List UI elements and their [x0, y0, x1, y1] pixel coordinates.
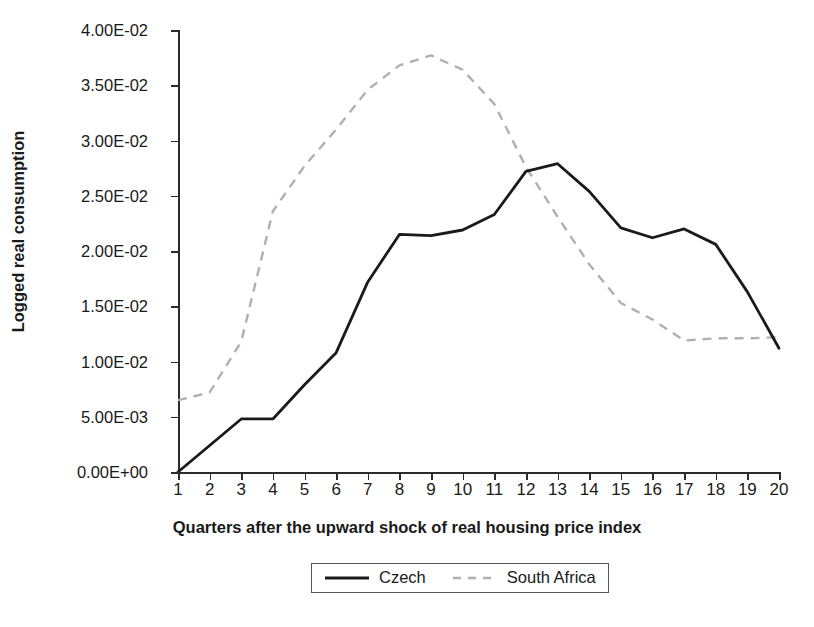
y-tick-mark [171, 417, 178, 419]
x-tick-label: 16 [643, 480, 662, 500]
x-tick-mark [684, 472, 686, 480]
y-tick-mark [171, 472, 178, 474]
x-tick-label: 3 [237, 480, 246, 500]
series-plot [178, 30, 779, 472]
legend-swatch-solid-icon [324, 572, 370, 584]
y-tick-mark [171, 362, 178, 364]
x-axis-title: Quarters after the upward shock of real … [0, 518, 814, 537]
x-tick-label: 17 [675, 480, 694, 500]
x-tick-mark [652, 472, 654, 480]
x-tick-label: 4 [268, 480, 277, 500]
x-tick-label: 20 [770, 480, 789, 500]
x-tick-mark [431, 472, 433, 480]
x-tick-mark [621, 472, 623, 480]
legend-entry-czech: Czech [324, 568, 426, 587]
x-tick-label: 10 [453, 480, 472, 500]
x-tick-mark [305, 472, 307, 480]
x-axis-title-text: Quarters after the upward shock of real … [173, 518, 642, 536]
x-tick-label: 19 [738, 480, 757, 500]
x-tick-label: 11 [485, 480, 503, 500]
x-tick-mark [779, 472, 781, 480]
y-tick-mark [171, 141, 178, 143]
y-tick-mark [171, 196, 178, 198]
x-tick-mark [273, 472, 275, 480]
x-axis-tick-labels: 1234567891011121314151617181920 [178, 480, 779, 506]
y-tick-label: 2.00E-02 [28, 242, 148, 261]
x-axis-line [178, 472, 780, 474]
x-tick-mark [241, 472, 243, 480]
x-tick-label: 2 [205, 480, 214, 500]
plot-area [178, 30, 779, 472]
x-tick-label: 6 [331, 480, 340, 500]
x-tick-mark [589, 472, 591, 480]
x-tick-label: 18 [706, 480, 725, 500]
x-tick-mark [526, 472, 528, 480]
chart-legend: Czech South Africa [311, 563, 609, 593]
legend-label-czech: Czech [379, 568, 426, 587]
y-tick-label: 0.00E+00 [28, 463, 148, 482]
y-tick-label: 4.00E-02 [28, 21, 148, 40]
x-tick-label: 1 [173, 480, 182, 500]
y-tick-label: 1.50E-02 [28, 297, 148, 316]
x-tick-mark [494, 472, 496, 480]
x-tick-mark [399, 472, 401, 480]
y-tick-mark [171, 85, 178, 87]
y-tick-mark [171, 30, 178, 32]
chart-figure: Logged real consumption 0.00E+005.00E-03… [0, 0, 814, 627]
x-tick-mark [178, 472, 180, 480]
x-tick-mark [463, 472, 465, 480]
series-line-czech [178, 164, 779, 472]
y-tick-label: 3.00E-02 [28, 131, 148, 150]
x-tick-mark [558, 472, 560, 480]
y-tick-mark [171, 306, 178, 308]
x-tick-label: 7 [363, 480, 372, 500]
x-tick-label: 5 [300, 480, 309, 500]
x-tick-label: 15 [611, 480, 630, 500]
legend-label-south-africa: South Africa [507, 568, 596, 587]
legend-entry-south-africa: South Africa [452, 568, 596, 587]
x-tick-label: 12 [516, 480, 535, 500]
x-tick-label: 14 [580, 480, 599, 500]
y-axis-title-text: Logged real consumption [9, 131, 28, 333]
x-tick-mark [716, 472, 718, 480]
x-tick-mark [747, 472, 749, 480]
x-tick-label: 9 [426, 480, 435, 500]
y-tick-label: 1.00E-02 [28, 352, 148, 371]
y-tick-label: 2.50E-02 [28, 186, 148, 205]
x-tick-mark [368, 472, 370, 480]
x-tick-label: 13 [548, 480, 567, 500]
y-tick-label: 3.50E-02 [28, 76, 148, 95]
series-line-south-africa [178, 55, 779, 400]
y-tick-label: 5.00E-03 [28, 407, 148, 426]
legend-swatch-dashed-icon [452, 572, 498, 584]
x-tick-label: 8 [395, 480, 404, 500]
x-tick-mark [336, 472, 338, 480]
y-axis-tick-labels: 0.00E+005.00E-031.00E-021.50E-022.00E-02… [28, 30, 148, 472]
x-tick-mark [210, 472, 212, 480]
y-tick-mark [171, 251, 178, 253]
